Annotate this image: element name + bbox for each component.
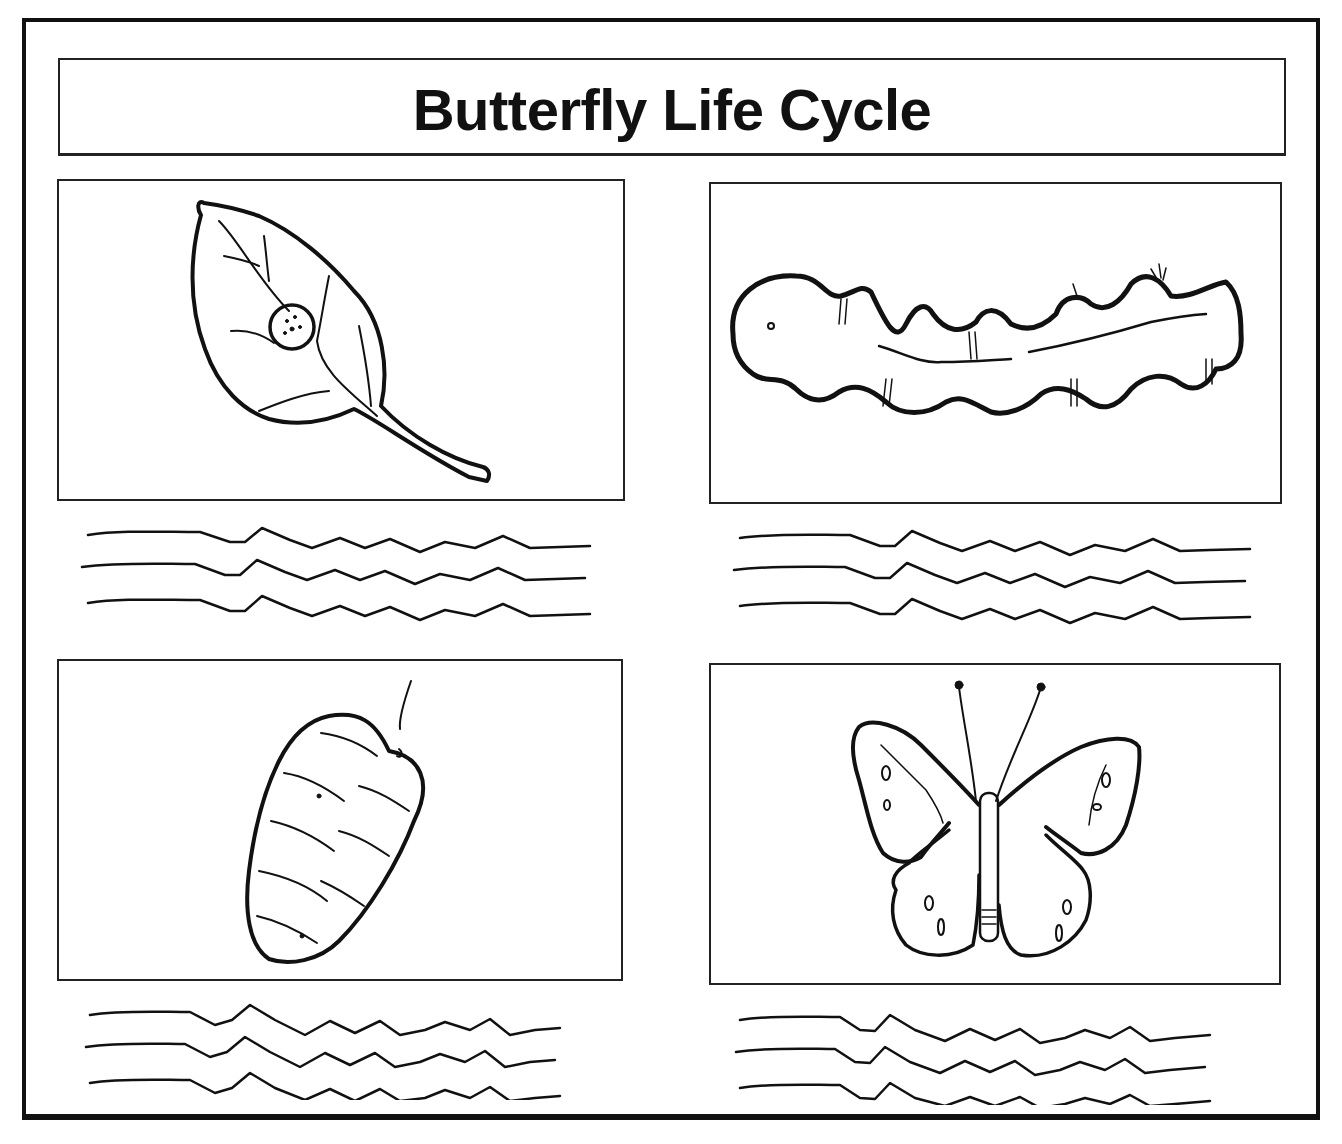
chrysalis-icon <box>59 661 625 983</box>
answer-lines-butterfly[interactable] <box>730 1005 1260 1105</box>
answer-lines-chrysalis[interactable] <box>80 1000 610 1100</box>
title-box: Butterfly Life Cycle <box>58 58 1286 156</box>
egg-on-leaf-icon <box>59 181 627 503</box>
caterpillar-icon <box>711 184 1284 506</box>
answer-lines-egg[interactable] <box>80 520 610 630</box>
butterfly-icon <box>711 665 1283 987</box>
stage-panel-butterfly: Butterfly <box>709 663 1281 985</box>
stage-panel-egg: Egg on leaf <box>57 179 625 501</box>
answer-lines-caterpillar[interactable] <box>730 520 1260 630</box>
stage-panel-chrysalis: Chrysalis <box>57 659 623 981</box>
stage-panel-caterpillar: Caterpillar <box>709 182 1282 504</box>
page-title: Butterfly Life Cycle <box>413 76 932 143</box>
